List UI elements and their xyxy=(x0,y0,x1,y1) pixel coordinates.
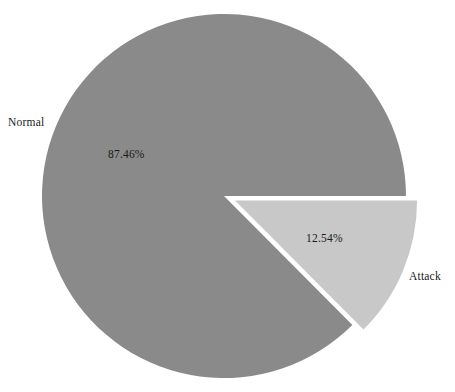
pie-chart-figure: Normal 87.46% Attack 12.54% xyxy=(0,0,455,392)
pie-slice-label-normal: Normal xyxy=(8,116,44,128)
pie-slice-label-attack: Attack xyxy=(409,270,441,282)
pie-slice-percent-normal: 87.46% xyxy=(108,148,145,160)
pie-slice-percent-attack: 12.54% xyxy=(306,232,343,244)
pie-chart-canvas xyxy=(0,0,455,392)
pie-slice-normal[interactable] xyxy=(42,14,406,378)
